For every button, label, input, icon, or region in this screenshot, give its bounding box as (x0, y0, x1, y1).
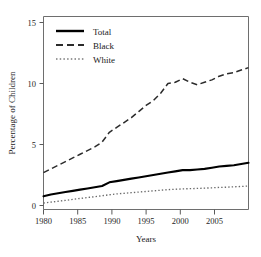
legend-label-black: Black (93, 41, 114, 51)
legend-label-white: White (93, 55, 115, 65)
chart-figure: 0 5 10 15 1980 1985 1990 1995 2000 2005 … (0, 0, 261, 257)
series-line-total (44, 163, 249, 197)
x-tick-label-1980: 1980 (35, 216, 52, 226)
y-tick-label-0: 0 (32, 201, 36, 211)
series-line-white (44, 186, 249, 203)
x-tick-label-1995: 1995 (138, 216, 155, 226)
y-axis-tick-labels: 0 5 10 15 (28, 18, 37, 211)
x-axis-tick-labels: 1980 1985 1990 1995 2000 2005 (35, 216, 223, 226)
x-tick-label-2005: 2005 (206, 216, 223, 226)
y-tick-label-15: 15 (28, 18, 37, 28)
x-axis-title: Years (136, 234, 157, 244)
y-tick-label-10: 10 (28, 79, 37, 89)
y-axis-title: Percentage of Children (7, 71, 17, 154)
y-axis-ticks (40, 23, 44, 206)
chart-legend: Total Black White (56, 27, 115, 65)
series-line-black (44, 68, 249, 173)
x-tick-label-2000: 2000 (172, 216, 189, 226)
x-tick-label-1990: 1990 (103, 216, 120, 226)
x-tick-label-1985: 1985 (69, 216, 86, 226)
legend-label-total: Total (93, 27, 112, 37)
y-tick-label-5: 5 (32, 140, 36, 150)
plot-frame (44, 17, 249, 210)
line-chart: 0 5 10 15 1980 1985 1990 1995 2000 2005 … (0, 0, 261, 257)
x-axis-ticks (44, 210, 215, 215)
